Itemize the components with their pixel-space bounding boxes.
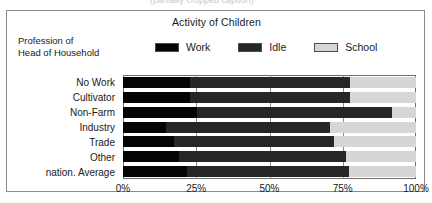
y-axis-caption-line-2: Head of Household (18, 47, 99, 59)
legend-label-idle: Idle (269, 41, 286, 53)
category-label: nation. Average (0, 167, 115, 178)
legend-swatch-idle-icon (238, 43, 262, 52)
bar-segment-work (123, 122, 166, 133)
category-label: Non-Farm (0, 107, 115, 118)
legend-label-work: Work (186, 41, 210, 53)
x-tick-label-75: 75% (333, 183, 353, 194)
legend-label-school: School (345, 41, 377, 53)
bar-segment-school (349, 166, 416, 177)
category-label: Trade (0, 137, 115, 148)
bar-segment-work (123, 107, 197, 118)
legend-item-work: Work (155, 41, 210, 53)
bar-segment-school (350, 77, 416, 88)
chart-frame: Activity of Children Profession of Head … (6, 10, 425, 192)
category-label: Other (0, 152, 115, 163)
x-tick-label-100: 100% (403, 183, 429, 194)
bar-segment-school (334, 136, 416, 147)
y-axis-caption: Profession of Head of Household (18, 35, 99, 59)
bar-segment-idle (179, 151, 347, 162)
bar-segment-school (350, 92, 416, 103)
legend-swatch-work-icon (155, 43, 179, 52)
bar-segment-work (123, 92, 190, 103)
bar-row (123, 107, 416, 118)
bar-segment-work (123, 151, 179, 162)
bar-segment-idle (187, 166, 349, 177)
bar-segment-idle (190, 77, 350, 88)
bar-row (123, 166, 416, 177)
category-label: No Work (0, 77, 115, 88)
screenshot-root: (partially cropped caption) Activity of … (0, 0, 432, 203)
bar-row (123, 92, 416, 103)
x-tick-label-25: 25% (186, 183, 206, 194)
plot-area: No WorkCultivatorNon-FarmIndustryTradeOt… (117, 75, 417, 179)
legend-item-school: School (314, 41, 377, 53)
y-axis-caption-line-1: Profession of (18, 35, 99, 47)
category-label: Industry (0, 122, 115, 133)
bar-row (123, 77, 416, 88)
bar-row (123, 122, 416, 133)
bar-rows (123, 75, 416, 179)
top-cropped-caption-text: (partially cropped caption) (150, 0, 254, 5)
bar-segment-work (123, 166, 187, 177)
bar-segment-work (123, 136, 174, 147)
x-tick-label-0: 0% (116, 183, 130, 194)
top-cropped-caption-strip: (partially cropped caption) (0, 0, 432, 7)
bar-segment-idle (190, 92, 350, 103)
legend-swatch-school-icon (314, 43, 338, 52)
category-label: Cultivator (0, 92, 115, 103)
bar-segment-idle (197, 107, 392, 118)
bar-segment-school (330, 122, 416, 133)
bar-segment-idle (166, 122, 329, 133)
chart-title: Activity of Children (7, 16, 426, 28)
x-tick-label-50: 50% (259, 183, 279, 194)
legend: Work Idle School (155, 41, 405, 53)
bar-segment-school (346, 151, 416, 162)
legend-item-idle: Idle (238, 41, 286, 53)
bar-segment-idle (174, 136, 333, 147)
bar-row (123, 151, 416, 162)
bar-segment-school (392, 107, 416, 118)
bar-segment-work (123, 77, 190, 88)
bar-row (123, 136, 416, 147)
